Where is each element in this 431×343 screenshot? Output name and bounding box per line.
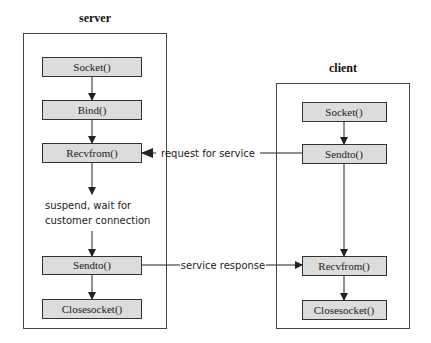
server-step-socket: Socket() — [43, 58, 142, 77]
client-step-recvfrom-label: Recvfrom() — [318, 260, 370, 273]
server-step-sendto: Sendto() — [43, 257, 142, 275]
server-step-recvfrom-label: Recvfrom() — [66, 147, 118, 160]
client-step-socket: Socket() — [303, 103, 387, 122]
server-note-line1: suspend, wait for — [45, 200, 132, 211]
server-container — [24, 34, 167, 329]
tcp-udp-flow-diagram: server Socket() Bind() Recvfrom() suspen… — [0, 0, 431, 343]
client-step-sendto-label: Sendto() — [325, 148, 363, 161]
server-step-sendto-label: Sendto() — [73, 259, 111, 272]
response-label: service response — [181, 260, 265, 271]
server-step-recvfrom: Recvfrom() — [43, 144, 142, 163]
server-step-socket-label: Socket() — [73, 61, 111, 74]
client-step-closesocket-label: Closesocket() — [314, 304, 375, 317]
request-label: request for service — [161, 148, 255, 159]
server-note-line2: customer connection — [45, 215, 150, 226]
server-step-bind-label: Bind() — [78, 104, 107, 117]
server-step-closesocket: Closesocket() — [43, 300, 142, 319]
client-step-closesocket: Closesocket() — [303, 301, 387, 320]
client-step-sendto: Sendto() — [303, 145, 387, 164]
client-title: client — [329, 61, 357, 75]
server-step-bind: Bind() — [43, 101, 142, 120]
server-note: suspend, wait for customer connection — [45, 200, 150, 226]
client-step-socket-label: Socket() — [325, 106, 363, 119]
server-step-closesocket-label: Closesocket() — [62, 303, 123, 316]
client-step-recvfrom: Recvfrom() — [303, 257, 387, 276]
server-title: server — [79, 11, 112, 25]
